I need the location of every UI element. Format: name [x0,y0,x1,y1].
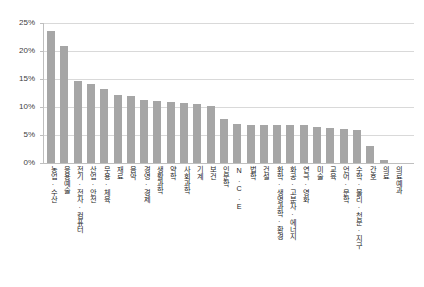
x-axis-category-label: 법학 [245,166,256,180]
bar [300,125,308,163]
x-axis-category-label: 재료 [112,166,123,180]
y-axis-tick-label: 15% [19,75,35,83]
x-axis-category-label: 무용·체육 [99,166,110,203]
x-axis-category-label: N.C.E [232,166,243,211]
x-axis-category-label: 교육 [325,166,336,180]
y-axis: 25% 20% 15% 10% 5% 0% [0,0,40,287]
x-axis-category-label: 농업·수산 [46,166,57,203]
x-axis-category-label: 화공·고분자·에너지 [285,166,296,240]
x-axis-category-label: 전기·전자·컴퓨터 [72,166,83,233]
bar [260,125,268,163]
y-axis-tick-label: 10% [19,103,35,111]
bar [247,125,255,163]
bar [353,130,361,163]
bar [140,100,148,163]
y-axis-tick-label: 25% [19,19,35,27]
bar [207,106,215,163]
x-axis-category-label: 응용예술 [59,166,70,194]
bar [313,127,321,163]
gridline-0-baseline [44,163,414,164]
bar-chart: 25% 20% 15% 10% 5% 0% 농업·수산응용예술전기·전자·컴퓨터… [0,0,424,287]
x-axis-category-label: 의료 [378,166,389,180]
bar [273,125,281,163]
bar [87,84,95,163]
x-axis-category-label: 음악 [125,166,136,180]
bar [233,124,241,163]
y-axis-tick-label: 0% [23,159,35,167]
bar [340,129,348,163]
bar [193,104,201,163]
bar [114,95,122,163]
x-axis-category-label: 생활과학 [152,166,163,194]
x-axis-category-label: 사회과학 [179,166,190,194]
x-axis-category-label: 경영·경제 [139,166,150,203]
x-axis-category-label: 보건 [205,166,216,180]
bar [326,128,334,163]
bar [153,101,161,163]
x-axis-category-label: 기계 [192,166,203,180]
x-axis-category-label: 언어·문학 [338,166,349,203]
y-axis-tick-label: 5% [23,131,35,139]
bar [286,125,294,163]
x-axis-labels: 농업·수산응용예술전기·전자·컴퓨터산업·안전무용·체육재료음악경영·경제생활과… [44,166,414,284]
bar [100,89,108,163]
x-axis-category-label: 연극·영화 [298,166,309,203]
bar [127,96,135,163]
x-axis-category-label: 미술 [312,166,323,180]
x-axis-category-label: 수학·물리·천문·지구 [351,166,362,249]
x-axis-category-label: 산업·안전 [85,166,96,203]
y-axis-tick-label: 20% [19,47,35,55]
bar [220,119,228,163]
x-axis-category-label: 의료예과 [391,166,402,194]
x-axis-category-label: 인문학 [218,166,229,187]
bar [180,103,188,163]
bar-series [44,23,414,163]
bar [167,102,175,163]
bar [60,46,68,163]
bar [380,160,388,163]
bar [74,81,82,163]
bar [366,146,374,163]
x-axis-category-label: 약학 [165,166,176,180]
x-axis-category-label: 화학·생명과학·환경 [272,166,283,240]
x-axis-category-label: 건설 [258,166,269,180]
x-axis-category-label: 간호 [365,166,376,180]
bar [47,31,55,163]
